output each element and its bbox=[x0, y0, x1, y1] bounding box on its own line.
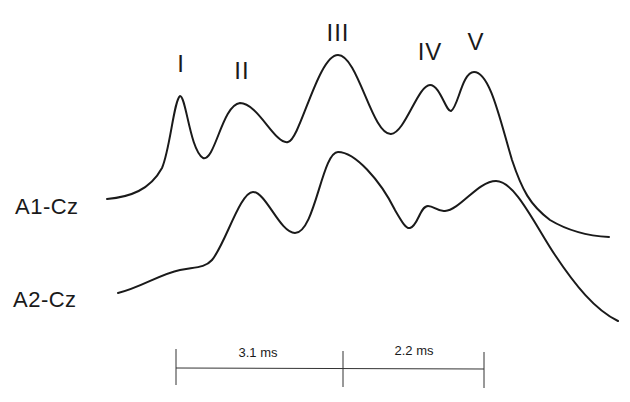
peak-label-iv: IV bbox=[418, 40, 443, 64]
time-scale-bar bbox=[176, 349, 484, 388]
trace-label-a2-cz: A2-Cz bbox=[13, 289, 77, 311]
peak-label-i: I bbox=[177, 52, 185, 76]
peak-label-v: V bbox=[467, 30, 484, 54]
trace-a1-cz bbox=[107, 55, 609, 237]
scale-label-first-interval: 3.1 ms bbox=[238, 346, 277, 359]
peak-label-iii: III bbox=[326, 21, 349, 45]
trace-label-a1-cz: A1-Cz bbox=[15, 196, 79, 218]
waveform-diagram bbox=[0, 0, 630, 402]
peak-label-ii: II bbox=[234, 59, 249, 83]
scale-label-second-interval: 2.2 ms bbox=[394, 344, 433, 357]
trace-a2-cz bbox=[118, 152, 618, 321]
scale-bar-line bbox=[176, 368, 484, 369]
